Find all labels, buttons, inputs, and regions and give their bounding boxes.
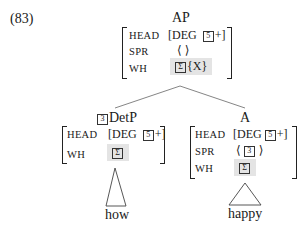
feature-wh: WH [67, 149, 85, 160]
a-label: A [240, 110, 250, 126]
value-head: [DEG 5+] [108, 127, 165, 142]
feature-head: HEAD [129, 30, 159, 41]
right-bracket [227, 27, 232, 79]
tag-3: 3 [97, 114, 108, 125]
leaf-happy: happy [228, 206, 262, 222]
value-head: [DEG 5+] [168, 28, 225, 43]
feature-wh: WH [129, 63, 147, 74]
tag-sigma: Σ [239, 163, 250, 174]
feature-spr: SPR [129, 46, 149, 57]
value-wh: Σ{X} [170, 58, 212, 75]
tag-5: 5 [143, 130, 154, 141]
feature-spr: SPR [195, 146, 215, 157]
detp-label: 3DetP [97, 110, 137, 126]
value-spr: ⟨ 3 ⟩ [236, 143, 263, 158]
value-head: [DEG 5+] [233, 127, 287, 142]
value-spr: ⟨ ⟩ [177, 43, 189, 58]
triangle-right [229, 183, 261, 205]
right-bracket [160, 126, 165, 164]
feature-head: HEAD [67, 129, 97, 140]
leaf-how: how [105, 207, 129, 223]
tag-5: 5 [203, 31, 214, 42]
tag-sigma: Σ [175, 62, 186, 73]
value-wh: Σ [234, 159, 256, 176]
tag-sigma: Σ [112, 148, 123, 159]
feature-head: HEAD [195, 129, 225, 140]
value-wh: Σ [107, 144, 129, 161]
tag-5: 5 [265, 130, 276, 141]
root-label: AP [172, 10, 190, 26]
left-bracket [122, 27, 127, 79]
tag-3: 3 [244, 146, 255, 157]
feature-wh: WH [195, 163, 213, 174]
right-bracket [292, 126, 297, 179]
triangle-left [106, 168, 126, 206]
